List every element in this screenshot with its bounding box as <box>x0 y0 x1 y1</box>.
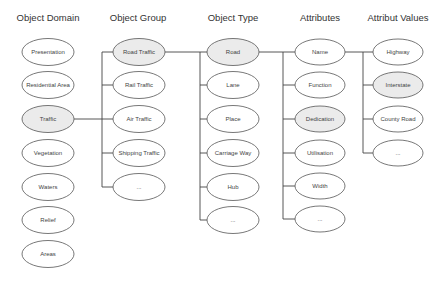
node-label: Dedication <box>306 116 334 122</box>
node-type-more[interactable]: ... <box>207 207 259 234</box>
column-object-type: Road Lane Place Carriage Way Hub ... <box>207 39 259 234</box>
node-label: Name <box>312 49 329 55</box>
node-label: Air Traffic <box>126 116 151 122</box>
column-object-domain: Presentation Residential Area Traffic Ve… <box>22 39 74 268</box>
node-label: Vegetation <box>34 150 62 156</box>
hierarchy-diagram: Object Domain Object Group Object Type A… <box>0 0 440 281</box>
node-label: Presentation <box>31 49 65 55</box>
node-label: Residential Area <box>26 82 70 88</box>
node-values-more[interactable]: ... <box>373 140 423 166</box>
header-object-group: Object Group <box>110 12 167 23</box>
node-label: Hub <box>227 184 239 190</box>
node-label: Interstate <box>385 82 411 88</box>
column-object-group: Road Traffic Rail Traffic Air Traffic Sh… <box>113 39 165 201</box>
node-label: Place <box>225 116 241 122</box>
node-traffic[interactable]: Traffic <box>22 106 74 133</box>
node-interstate[interactable]: Interstate <box>373 72 423 98</box>
node-shipping-traffic[interactable]: Shipping Traffic <box>113 140 165 167</box>
node-dedication[interactable]: Dedication <box>295 106 345 132</box>
node-label: Relief <box>40 217 56 223</box>
node-vegetation[interactable]: Vegetation <box>22 140 74 167</box>
node-label: Traffic <box>40 116 56 122</box>
column-attributes: Name Function Dedication Utilisation Wid… <box>295 39 345 232</box>
node-label: Rail Traffic <box>125 82 153 88</box>
node-label: ... <box>136 184 141 190</box>
node-relief[interactable]: Relief <box>22 207 74 234</box>
node-residential-area[interactable]: Residential Area <box>22 72 74 99</box>
node-label: Road Traffic <box>123 49 155 55</box>
node-label: ... <box>395 150 400 156</box>
node-label: ... <box>230 217 235 223</box>
node-label: County Road <box>380 116 415 122</box>
node-air-traffic[interactable]: Air Traffic <box>113 106 165 133</box>
node-presentation[interactable]: Presentation <box>22 39 74 66</box>
node-label: Utilisation <box>307 150 333 156</box>
node-label: Width <box>312 183 327 189</box>
node-attributes-more[interactable]: ... <box>295 206 345 232</box>
node-waters[interactable]: Waters <box>22 174 74 201</box>
node-label: Road <box>226 49 240 55</box>
node-label: Highway <box>386 49 409 55</box>
node-road[interactable]: Road <box>207 39 259 66</box>
node-label: Waters <box>39 184 58 190</box>
node-label: ... <box>317 216 322 222</box>
node-label: Carriage Way <box>215 150 251 156</box>
node-areas[interactable]: Areas <box>22 241 74 268</box>
header-object-type: Object Type <box>208 12 259 23</box>
node-label: Shipping Traffic <box>118 150 159 156</box>
node-road-traffic[interactable]: Road Traffic <box>113 39 165 66</box>
node-function[interactable]: Function <box>295 72 345 98</box>
node-place[interactable]: Place <box>207 106 259 133</box>
header-attribut-values: Attribut Values <box>367 12 428 23</box>
node-rail-traffic[interactable]: Rail Traffic <box>113 72 165 99</box>
node-group-more[interactable]: ... <box>113 174 165 201</box>
column-attribut-values: Highway Interstate County Road ... <box>373 39 423 166</box>
header-attributes: Attributes <box>300 12 340 23</box>
node-highway[interactable]: Highway <box>373 39 423 65</box>
node-hub[interactable]: Hub <box>207 174 259 201</box>
node-county-road[interactable]: County Road <box>373 106 423 132</box>
node-lane[interactable]: Lane <box>207 72 259 99</box>
node-name[interactable]: Name <box>295 39 345 65</box>
header-object-domain: Object Domain <box>17 12 80 23</box>
node-label: Lane <box>226 82 240 88</box>
node-width[interactable]: Width <box>295 173 345 199</box>
node-utilisation[interactable]: Utilisation <box>295 140 345 166</box>
node-label: Areas <box>40 251 56 257</box>
node-label: Function <box>308 82 331 88</box>
node-carriage-way[interactable]: Carriage Way <box>207 140 259 167</box>
